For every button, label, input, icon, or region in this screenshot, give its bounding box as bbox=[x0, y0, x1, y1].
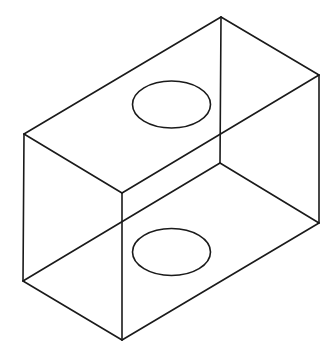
edge-top-front-left bbox=[24, 134, 122, 193]
edge-bottom-front-left bbox=[23, 281, 122, 340]
box-diagram bbox=[0, 0, 335, 349]
top-hole bbox=[133, 81, 211, 128]
edge-bottom-back-right bbox=[220, 163, 319, 223]
edge-top-back-left bbox=[24, 17, 221, 134]
edge-top-back-right bbox=[221, 17, 319, 75]
wireframe-box-drawing bbox=[0, 0, 335, 349]
box-edges bbox=[23, 17, 319, 340]
edge-vertical-left bbox=[23, 134, 24, 281]
box-holes bbox=[133, 81, 211, 276]
edge-vertical-back bbox=[220, 17, 221, 163]
edge-bottom-front-right bbox=[122, 223, 319, 340]
bottom-hole bbox=[133, 229, 211, 276]
